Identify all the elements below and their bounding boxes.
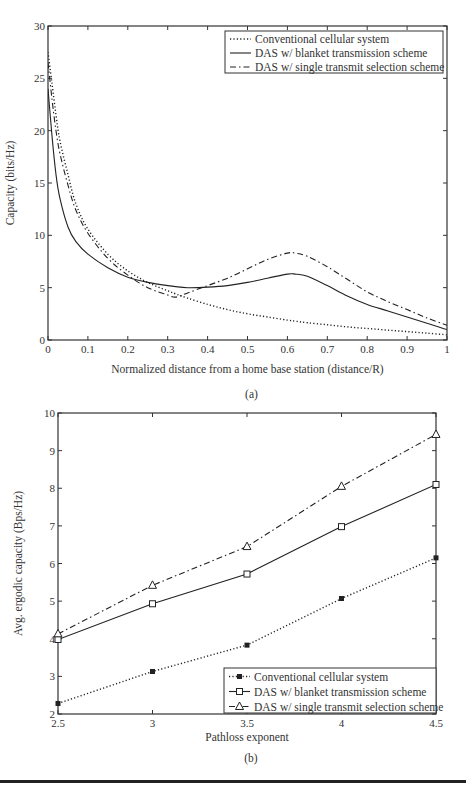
x-tick-label: 0.7	[320, 343, 334, 355]
chart-a: 00.10.20.30.40.50.60.70.80.9105101520253…	[4, 20, 450, 401]
star-marker	[150, 669, 155, 674]
series-line	[58, 485, 436, 640]
star-marker	[237, 674, 242, 679]
chart-b: 2.533.544.52345678910Pathloss exponentAv…	[12, 407, 443, 765]
y-tick-label: 10	[34, 229, 46, 241]
y-tick-label: 9	[50, 445, 56, 457]
y-tick-label: 30	[34, 20, 46, 32]
triangle-marker	[54, 629, 62, 637]
star-marker	[339, 596, 344, 601]
series-line	[58, 434, 436, 634]
series-line	[48, 89, 447, 330]
square-marker	[150, 601, 156, 607]
legend-entry-label: DAS w/ blanket transmission scheme	[254, 686, 426, 698]
legend-entry-label: DAS w/ blanket transmission scheme	[255, 47, 427, 59]
x-tick-label: 1	[444, 343, 450, 355]
figure: 00.10.20.30.40.50.60.70.80.9105101520253…	[0, 0, 466, 792]
y-tick-label: 0	[40, 334, 46, 346]
star-marker	[245, 643, 250, 648]
x-tick-label: 0.6	[281, 343, 295, 355]
x-tick-label: 0.8	[360, 343, 374, 355]
square-marker	[55, 637, 61, 643]
x-tick-label: 0.5	[241, 343, 255, 355]
x-tick-label: 4.5	[429, 717, 443, 729]
x-tick-label: 0.4	[201, 343, 215, 355]
series-solid	[48, 89, 447, 330]
series-dashdot	[48, 63, 447, 326]
series-line	[48, 52, 447, 335]
series-line	[48, 63, 447, 326]
series-dotted	[48, 52, 447, 335]
y-tick-label: 8	[50, 482, 56, 494]
y-tick-label: 15	[34, 177, 46, 189]
y-axis-label: Avg. ergodic capacity (Bps/Hz)	[12, 491, 25, 636]
figure-caption: (a)	[245, 388, 258, 401]
square-marker	[237, 689, 243, 695]
x-axis-label: Normalized distance from a home base sta…	[111, 363, 384, 376]
legend-entry-label: DAS w/ single transmit selection scheme	[255, 61, 444, 74]
x-tick-label: 0.1	[81, 343, 95, 355]
square-marker	[244, 571, 250, 577]
triangle-marker	[432, 430, 440, 438]
series-solid	[55, 481, 439, 642]
triangle-marker	[338, 482, 346, 490]
x-axis-ticks: 00.10.20.30.40.50.60.70.80.91	[45, 26, 450, 355]
y-tick-label: 6	[50, 558, 56, 570]
x-tick-label: 3.5	[240, 717, 254, 729]
x-axis-label: Pathloss exponent	[205, 731, 289, 744]
y-tick-label: 10	[44, 407, 56, 419]
series-dashdot	[54, 430, 440, 637]
x-tick-label: 4	[339, 717, 345, 729]
y-tick-label: 2	[50, 708, 56, 720]
triangle-marker	[243, 542, 251, 550]
star-marker	[434, 555, 439, 560]
legend-entry-label: Conventional cellular system	[255, 33, 389, 46]
y-tick-label: 25	[34, 72, 46, 84]
page-bottom-rule	[0, 780, 466, 783]
x-tick-label: 0.9	[400, 343, 414, 355]
y-tick-label: 5	[50, 595, 56, 607]
square-marker	[433, 481, 439, 487]
y-tick-label: 3	[50, 670, 56, 682]
y-axis-label: Capacity (bits/Hz)	[4, 141, 17, 226]
x-tick-label: 3	[150, 717, 156, 729]
figure-caption: (b)	[244, 752, 258, 765]
x-tick-label: 0.3	[161, 343, 175, 355]
square-marker	[339, 524, 345, 530]
legend-entry-label: Conventional cellular system	[254, 671, 388, 684]
x-tick-label: 0	[45, 343, 51, 355]
star-marker	[56, 701, 61, 706]
x-tick-label: 0.2	[121, 343, 135, 355]
legend: Conventional cellular systemDAS w/ blank…	[224, 668, 443, 714]
y-tick-label: 5	[40, 282, 46, 294]
y-tick-label: 20	[34, 125, 46, 137]
legend-entry-label: DAS w/ single transmit selection scheme	[254, 701, 443, 714]
legend: Conventional cellular systemDAS w/ blank…	[225, 31, 444, 74]
y-tick-label: 7	[50, 520, 56, 532]
